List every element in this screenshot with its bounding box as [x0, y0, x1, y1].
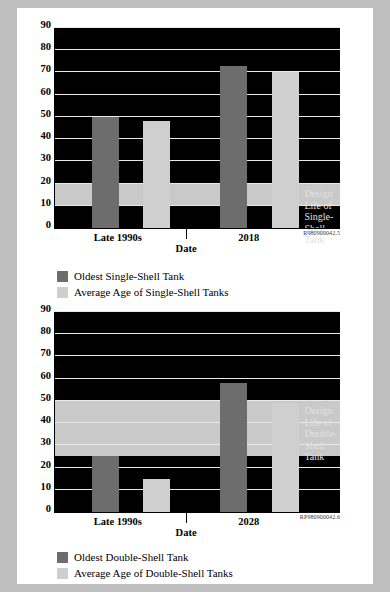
y-axis-tick-label: 80 [41, 41, 52, 52]
legend-swatch-oldest [57, 271, 68, 282]
chart-double-shell: Age of Tanks (Years) Design Life of Doub… [17, 306, 373, 578]
legend-label: Oldest Single-Shell Tank [74, 270, 184, 282]
y-axis-tick-label: 50 [41, 391, 52, 402]
x-axis-tick-mark [186, 228, 187, 239]
bar-average [143, 479, 170, 512]
x-axis-tick-label: Late 1990s [94, 516, 142, 527]
x-axis-title: Date [176, 243, 197, 254]
x-axis-tick-label: 2018 [238, 232, 259, 243]
bar-oldest [92, 456, 119, 512]
figure-page: Age of Tanks (Years) Design Life of Sing… [17, 8, 373, 584]
y-axis-tick-label: 0 [46, 219, 51, 230]
chart-single-shell: Age of Tanks (Years) Design Life of Sing… [17, 22, 373, 297]
design-life-label: Design Life of Double-Shell Tank [304, 405, 340, 463]
legend-label: Oldest Double-Shell Tank [74, 551, 189, 563]
bar-average [272, 72, 299, 228]
figure-id-label: RP980900042.6 [300, 514, 340, 520]
y-axis-tick-label: 60 [41, 369, 52, 380]
gridline [55, 400, 340, 401]
y-axis-tick-label: 20 [41, 174, 52, 185]
y-axis-tick-label: 0 [46, 503, 51, 514]
y-axis-tick-label: 10 [41, 480, 52, 491]
legend-item: Oldest Single-Shell Tank [57, 268, 229, 284]
y-axis-tick-label: 40 [41, 414, 52, 425]
bar-oldest [220, 383, 247, 512]
y-axis-line [54, 312, 55, 512]
gridline [55, 355, 340, 356]
bar-oldest [92, 117, 119, 228]
legend-item: Average Age of Single-Shell Tanks [57, 284, 229, 300]
gridline [55, 49, 340, 50]
bar-average [143, 121, 170, 228]
legend-swatch-average [57, 287, 68, 298]
legend-item: Oldest Double-Shell Tank [57, 549, 233, 565]
gridline [55, 311, 340, 312]
legend-double-shell: Oldest Double-Shell TankAverage Age of D… [57, 549, 233, 581]
gridline [55, 378, 340, 379]
legend-swatch-average [57, 568, 68, 579]
x-axis-title: Date [176, 527, 197, 538]
legend-single-shell: Oldest Single-Shell TankAverage Age of S… [57, 268, 229, 300]
y-axis-tick-label: 30 [41, 152, 52, 163]
legend-label: Average Age of Single-Shell Tanks [74, 286, 229, 298]
x-axis-group: RP980900042.6 Late 1990s2028Date [55, 512, 340, 552]
gridline [55, 27, 340, 28]
y-axis-tick-label: 10 [41, 196, 52, 207]
y-axis-tick-label: 90 [41, 19, 52, 30]
bar-oldest [220, 66, 247, 228]
plot-canvas: Design Life of Double-Shell Tank [55, 312, 340, 512]
x-axis-tick-label: Late 1990s [94, 232, 142, 243]
y-axis-tick-label: 70 [41, 347, 52, 358]
plot-area-double-shell: Age of Tanks (Years) Design Life of Doub… [55, 312, 340, 512]
y-axis-tick-label: 70 [41, 63, 52, 74]
gridline [55, 333, 340, 334]
x-axis-tick-mark [186, 512, 187, 523]
legend-swatch-oldest [57, 552, 68, 563]
y-axis-tick-label: 40 [41, 130, 52, 141]
y-axis-line [54, 28, 55, 228]
plot-area-single-shell: Age of Tanks (Years) Design Life of Sing… [55, 28, 340, 228]
figure-id-label: R980900042.5 [303, 230, 340, 236]
y-axis-tick-label: 50 [41, 107, 52, 118]
bar-average [272, 403, 299, 512]
y-axis-tick-label: 30 [41, 436, 52, 447]
y-axis-tick-label: 20 [41, 458, 52, 469]
y-axis-tick-label: 60 [41, 85, 52, 96]
plot-canvas: Design Life of Single-Shell Tank [55, 28, 340, 228]
y-axis-tick-label: 80 [41, 325, 52, 336]
x-axis-tick-label: 2028 [238, 516, 259, 527]
y-axis-tick-label: 90 [41, 303, 52, 314]
legend-item: Average Age of Double-Shell Tanks [57, 565, 233, 581]
legend-label: Average Age of Double-Shell Tanks [74, 567, 233, 579]
x-axis-group: R980900042.5 Late 1990s2018Date [55, 228, 340, 268]
